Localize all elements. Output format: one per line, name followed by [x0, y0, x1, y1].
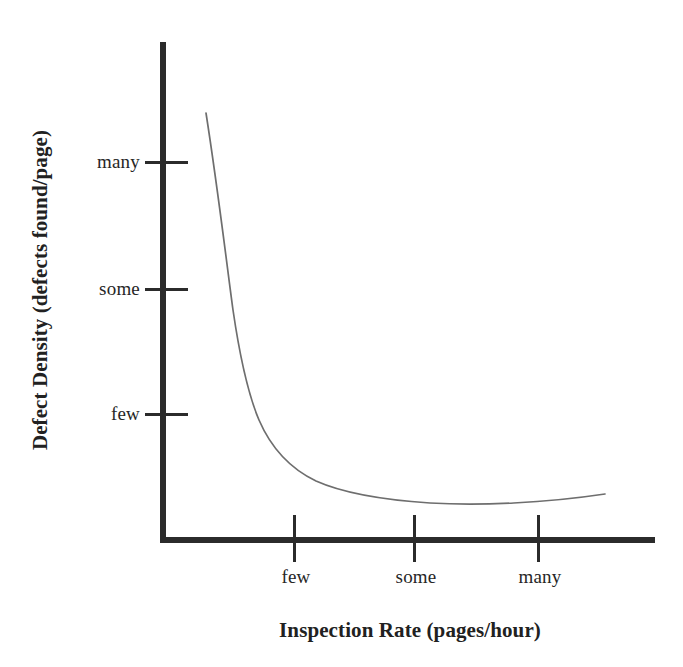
chart-figure: many some few few some many Defect Densi…: [0, 0, 683, 667]
x-axis-tick-label-some: some: [396, 566, 437, 588]
y-axis-title: Defect Density (defects found/page): [20, 40, 60, 540]
y-axis-tick-mark-many: [145, 161, 188, 164]
y-axis-tick-label-some: some: [99, 279, 140, 298]
defect-density-curve: [206, 113, 605, 504]
x-axis-tick-label-many: many: [518, 566, 561, 588]
y-axis-tick-label-many: many: [97, 152, 140, 171]
x-axis-tick-mark-many: [537, 515, 540, 562]
y-axis-tick-mark-some: [145, 288, 188, 291]
y-axis-tick-label-few: few: [111, 404, 140, 423]
x-axis-title: Inspection Rate (pages/hour): [160, 617, 660, 643]
y-axis-line: [160, 42, 166, 543]
x-axis-line: [160, 537, 655, 543]
x-axis-tick-label-few: few: [281, 566, 310, 588]
y-axis-tick-mark-few: [145, 413, 188, 416]
x-axis-tick-mark-some: [413, 515, 416, 562]
plot-area: [0, 0, 683, 667]
x-axis-tick-mark-few: [293, 515, 296, 562]
